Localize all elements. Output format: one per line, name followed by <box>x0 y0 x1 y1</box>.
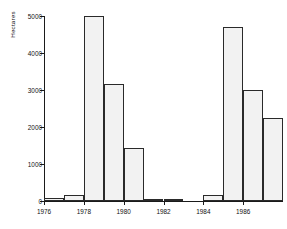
y-tick-label: 1000 <box>28 160 42 169</box>
bar <box>243 90 263 201</box>
x-tick-label: 1984 <box>196 207 210 216</box>
y-tick-label: 0 <box>38 197 42 206</box>
bar <box>203 195 223 201</box>
x-tick-label: 1982 <box>156 207 170 216</box>
x-tick-label: 1986 <box>236 207 250 216</box>
bar <box>263 118 283 201</box>
bar <box>124 148 144 201</box>
x-tick-label: 1980 <box>117 207 131 216</box>
x-tick-mark <box>44 202 45 205</box>
bar <box>84 16 104 201</box>
x-tick-label: 1976 <box>37 207 51 216</box>
bar <box>64 195 84 201</box>
x-tick-mark <box>84 202 85 205</box>
bar <box>104 84 124 201</box>
x-tick-mark <box>124 202 125 205</box>
x-tick-mark <box>203 202 204 205</box>
y-tick-label: 4000 <box>28 49 42 58</box>
y-axis-title: Hectares <box>6 0 20 139</box>
bar-chart: Hectares 010002000300040005000 197619781… <box>0 0 287 229</box>
bar <box>223 27 243 201</box>
bar <box>144 199 164 201</box>
bar <box>164 199 184 201</box>
y-tick-label: 2000 <box>28 123 42 132</box>
y-tick-label: 5000 <box>28 12 42 21</box>
x-tick-mark <box>164 202 165 205</box>
bar <box>44 198 64 201</box>
y-tick-label: 3000 <box>28 86 42 95</box>
plot-area: 010002000300040005000 197619781980198219… <box>44 16 283 202</box>
x-tick-mark <box>243 202 244 205</box>
x-tick-label: 1978 <box>77 207 91 216</box>
y-axis-line <box>44 16 45 202</box>
